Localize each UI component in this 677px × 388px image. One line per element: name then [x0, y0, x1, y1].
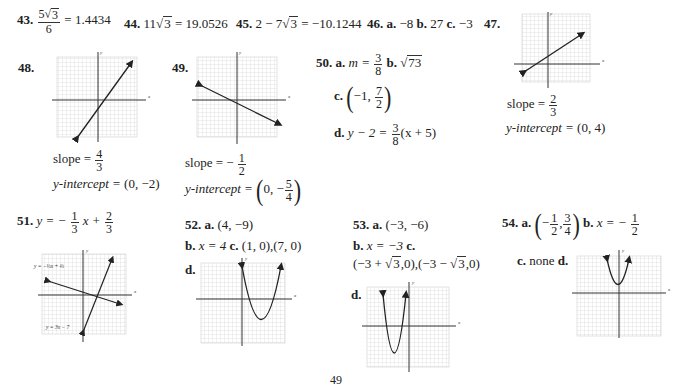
part-label: a. [387, 16, 397, 31]
intercept-value: (0, 4) [577, 120, 605, 135]
radicand: 3 [51, 8, 59, 22]
graph-48: x y [50, 50, 150, 150]
problem-44: 44. 11√3 = 19.0526 [124, 16, 228, 32]
problem-52-b-c: b. x = 4 c. (1, 0),(7, 0) [185, 238, 301, 254]
svg-text:x: x [293, 293, 297, 298]
problem-50-c: c. (−1, 72) [334, 85, 391, 110]
problem-47-intercept: y-intercept = (0, 4) [506, 120, 605, 136]
page-number: 49 [330, 373, 342, 388]
result: = 1.4434 [64, 12, 110, 27]
problem-48-intercept: y-intercept = (0, −2) [53, 176, 160, 192]
problem-number: 46. [367, 16, 383, 31]
problem-53-c-value: (−3 + √3,0),(−3 − √3,0) [353, 256, 480, 272]
svg-text:x: x [287, 94, 291, 99]
problem-52-d-label: d. [185, 262, 195, 278]
slope-label: slope = [507, 96, 545, 111]
svg-text:x: x [601, 58, 605, 63]
graph-53: x y [362, 282, 462, 377]
svg-text:y = 3x − 7: y = 3x − 7 [45, 324, 70, 330]
intercept-label: y-intercept = [506, 120, 577, 135]
answer-c: −3 [459, 16, 473, 31]
radicand: 3 [163, 16, 172, 30]
denominator: 6 [45, 23, 53, 35]
svg-text:y: y [244, 256, 248, 261]
svg-text:y: y [99, 50, 103, 55]
problem-53-b-c: b. x = −3 c. [353, 238, 415, 254]
svg-text:x: x [147, 94, 151, 99]
graph-51: x y y = −⅓x + ⅔ y = 3x − 7 [36, 250, 136, 350]
fraction: 5√3 6 [38, 8, 61, 35]
graph-49: x y [190, 52, 290, 152]
svg-text:y: y [238, 50, 242, 55]
svg-text:y: y [411, 280, 415, 285]
svg-text:x: x [667, 287, 671, 292]
graph-52: x y [196, 258, 296, 353]
part-label: c. [447, 16, 456, 31]
problem-number-49: 49. [172, 60, 188, 76]
answer-a: −8 [400, 16, 414, 31]
problem-49-slope: slope = − 12 [185, 152, 247, 177]
svg-text:y = −⅓x + ⅔: y = −⅓x + ⅔ [33, 263, 65, 269]
problem-45: 45. 2 − 7√3 = −10.1244 [236, 16, 361, 32]
problem-53-a: 53. a. (−3, −6) [353, 217, 428, 233]
problem-47-slope: slope = 23 [507, 93, 558, 118]
problem-number-47: 47. [484, 16, 500, 32]
radicand: 3 [289, 16, 298, 30]
answer-b: 27 [430, 16, 443, 31]
problem-54-a-b: 54. a. (−12,34) b. x = − 12 [502, 212, 640, 237]
svg-text:x: x [457, 320, 461, 325]
problem-48-slope: slope = 43 [53, 148, 104, 173]
graph-47: x y [510, 12, 610, 94]
problem-51-equation: 51. y = − 13 x + 23 [17, 210, 114, 235]
slope-fraction: 23 [549, 93, 557, 118]
problem-number: 45. [236, 16, 252, 31]
problem-number-48: 48. [18, 60, 34, 76]
problem-54-c-d: c. none d. [517, 253, 568, 269]
svg-text:y: y [621, 248, 625, 253]
problem-46: 46. a. −8 b. 27 c. −3 [367, 16, 473, 32]
problem-53-d-label: d. [351, 287, 361, 303]
result: = 19.0526 [175, 16, 228, 31]
problem-49-intercept: y-intercept = (0, −54) [185, 178, 301, 203]
problem-50-d: d. y − 2 = 38(x + 5) [334, 122, 436, 147]
problem-50-a-b: 50. a. m = 38 b. √73 [316, 52, 422, 77]
svg-text:y: y [85, 248, 89, 253]
problem-43: 43. 5√3 6 = 1.4434 [17, 8, 111, 35]
result: = −10.1244 [301, 16, 361, 31]
problem-number: 43. [17, 12, 33, 27]
problem-number: 44. [124, 16, 140, 31]
expression: 2 − 7 [256, 16, 283, 31]
graph-54: x y [572, 250, 672, 345]
part-label: b. [417, 16, 427, 31]
problem-52-a: 52. a. (4, −9) [185, 217, 253, 233]
coefficient: 11 [144, 16, 157, 31]
svg-text:x: x [133, 289, 137, 294]
